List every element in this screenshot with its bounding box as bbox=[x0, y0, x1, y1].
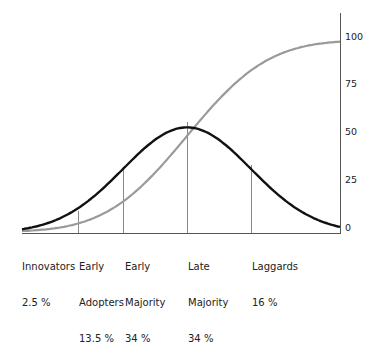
label-innovators-share: 2.5 % bbox=[22, 297, 75, 309]
cumulative-adoption-curve bbox=[22, 42, 340, 231]
label-early-adopters: Early Adopters 13.5 % bbox=[79, 237, 124, 346]
label-early-adopters-name2: Adopters bbox=[79, 297, 124, 309]
label-innovators-name: Innovators bbox=[22, 261, 75, 273]
label-early-majority: Early Majority 34 % bbox=[125, 237, 165, 346]
label-late-majority: Late Majority 34 % bbox=[188, 237, 228, 346]
label-early-majority-name1: Early bbox=[125, 261, 165, 273]
label-laggards-share: 16 % bbox=[252, 297, 298, 309]
label-early-adopters-share: 13.5 % bbox=[79, 333, 124, 345]
label-late-majority-name2: Majority bbox=[188, 297, 228, 309]
y-tick-100: 100 bbox=[345, 32, 363, 42]
label-early-adopters-name1: Early bbox=[79, 261, 124, 273]
y-tick-0: 0 bbox=[345, 223, 351, 233]
label-innovators: Innovators 2.5 % bbox=[22, 237, 75, 321]
y-tick-50: 50 bbox=[345, 127, 357, 137]
label-laggards-name: Laggards bbox=[252, 261, 298, 273]
label-laggards: Laggards 16 % bbox=[252, 237, 298, 321]
label-early-majority-name2: Majority bbox=[125, 297, 165, 309]
y-tick-75: 75 bbox=[345, 79, 357, 89]
label-late-majority-share: 34 % bbox=[188, 333, 228, 345]
y-tick-25: 25 bbox=[345, 175, 357, 185]
label-early-majority-share: 34 % bbox=[125, 333, 165, 345]
label-late-majority-name1: Late bbox=[188, 261, 228, 273]
